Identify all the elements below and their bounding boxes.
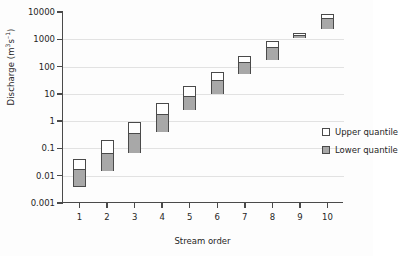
x-axis-tick-label: 8: [270, 212, 275, 222]
chart-legend: Upper quantileLower quantile: [322, 125, 403, 161]
y-axis-tick: [57, 175, 63, 176]
y-axis-tick-label: 0.01: [36, 171, 55, 181]
lower-quantile-fill: [157, 114, 168, 132]
gridline: [63, 67, 344, 68]
x-axis-tick: [189, 202, 190, 208]
x-axis-tick-label: 3: [132, 212, 137, 222]
quantile-bar: [128, 122, 141, 153]
gridline: [63, 94, 344, 95]
quantile-bar: [73, 159, 86, 186]
y-axis-tick-label: 10000: [28, 7, 55, 17]
y-axis-tick-label: 10: [44, 89, 55, 99]
lower-quantile-fill: [129, 133, 140, 152]
y-axis-tick-label: 0.001: [31, 198, 55, 208]
y-axis-tick: [57, 66, 63, 67]
y-axis-tick: [57, 93, 63, 94]
plot-area: 0.0010.010.1110100100010000 12345678910 …: [62, 12, 343, 203]
legend-swatch-upper-icon: [322, 128, 330, 136]
legend-label: Lower quantile: [335, 145, 398, 155]
x-axis-tick: [244, 202, 245, 208]
gridline: [63, 39, 344, 40]
quantile-bar: [293, 33, 306, 38]
x-axis-tick-label: 10: [322, 212, 333, 222]
quantile-bar: [101, 140, 114, 171]
quantile-bar: [266, 41, 279, 60]
gridline: [63, 176, 344, 177]
y-axis-tick-label: 100: [39, 62, 55, 72]
y-axis-tick-label: 1000: [33, 34, 55, 44]
y-axis-title-text: Discharge (m3s–1): [6, 29, 16, 106]
quantile-bar: [156, 103, 169, 132]
lower-quantile-fill: [102, 153, 113, 171]
lower-quantile-fill: [267, 47, 278, 60]
legend-item: Upper quantile: [322, 125, 403, 139]
legend-label: Upper quantile: [335, 127, 398, 137]
y-axis-tick: [57, 39, 63, 40]
x-axis-tick: [299, 202, 300, 208]
x-axis-tick-label: 5: [187, 212, 192, 222]
y-axis-tick: [57, 11, 63, 12]
x-axis-tick: [106, 202, 107, 208]
lower-quantile-fill: [74, 169, 85, 186]
x-axis-tick-label: 2: [104, 212, 109, 222]
lower-quantile-fill: [294, 35, 305, 38]
y-axis-tick: [57, 120, 63, 121]
legend-item: Lower quantile: [322, 143, 403, 157]
y-axis-tick: [57, 148, 63, 149]
lower-quantile-fill: [212, 80, 223, 94]
x-axis-tick-label: 7: [242, 212, 247, 222]
lower-quantile-fill: [322, 18, 333, 29]
x-axis-tick: [134, 202, 135, 208]
quantile-bar: [211, 72, 224, 94]
lower-quantile-fill: [239, 62, 250, 73]
quantile-bar: [238, 56, 251, 74]
x-axis-tick: [217, 202, 218, 208]
x-axis-tick: [272, 202, 273, 208]
y-axis-tick-label: 1: [50, 116, 55, 126]
quantile-bar: [321, 14, 334, 29]
y-axis-title: Discharge (m3s–1): [6, 0, 20, 137]
x-axis-tick: [161, 202, 162, 208]
x-axis-tick-label: 4: [159, 212, 164, 222]
legend-swatch-lower-icon: [322, 146, 330, 154]
x-axis-tick: [327, 202, 328, 208]
x-axis-tick-label: 1: [77, 212, 82, 222]
gridline: [63, 121, 344, 122]
y-axis-tick: [57, 202, 63, 203]
x-axis-tick: [79, 202, 80, 208]
x-axis-title: Stream order: [62, 236, 343, 246]
x-axis-tick-label: 9: [297, 212, 302, 222]
y-axis-tick-label: 0.1: [41, 143, 55, 153]
quantile-bar: [183, 86, 196, 111]
x-axis-tick-label: 6: [215, 212, 220, 222]
lower-quantile-fill: [184, 96, 195, 110]
